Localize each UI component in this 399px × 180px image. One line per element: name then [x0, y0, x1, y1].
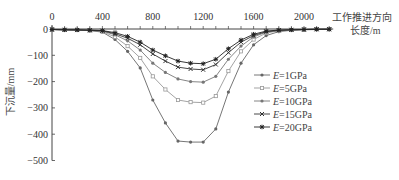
dot-marker-icon [176, 139, 179, 142]
dot-marker-icon [214, 75, 217, 78]
dot-marker-icon [164, 71, 167, 74]
legend-value: =5GPa [279, 83, 307, 94]
dot-marker-icon [189, 80, 192, 83]
square-marker-icon [189, 101, 192, 104]
square-marker-icon [164, 88, 167, 91]
dot-marker-icon [176, 77, 179, 80]
legend-label: E=5GPa [272, 83, 308, 94]
dot-marker-icon [239, 62, 242, 65]
square-marker-icon [139, 56, 142, 59]
dot-marker-icon [126, 50, 129, 53]
legend-var: E [272, 122, 279, 133]
dot-marker-icon [239, 44, 242, 47]
dot-marker-icon [164, 121, 167, 124]
dot-marker-icon [151, 62, 154, 65]
legend-var: E [272, 70, 279, 81]
legend-label: E=1GPa [272, 70, 308, 81]
square-marker-icon [227, 69, 230, 72]
legend-value: =20GPa [279, 122, 312, 133]
dot-marker-icon [227, 91, 230, 94]
dot-marker-icon [202, 140, 205, 143]
series-line [52, 29, 329, 63]
y-tick-label: −300 [27, 102, 48, 113]
y-axis-label: 下沉量/mm [4, 68, 16, 117]
dot-marker-icon [139, 66, 142, 69]
dot-marker-icon [214, 127, 217, 130]
legend-label: E=10GPa [272, 96, 313, 107]
y-tick-label: −200 [27, 76, 48, 87]
dot-marker-icon [139, 48, 142, 51]
dot-marker-icon [202, 81, 205, 84]
square-marker-icon [202, 101, 205, 104]
y-tick-label: 0 [43, 24, 48, 35]
y-tick-label: −500 [27, 155, 48, 166]
x-tick-label: 2000 [294, 11, 314, 22]
x-tick-label: 0 [50, 11, 55, 22]
square-marker-icon [126, 44, 129, 47]
dot-marker-icon [227, 58, 230, 61]
legend: E=1GPaE=5GPaE=10GPaE=15GPaE=20GPa [254, 70, 313, 133]
x-tick-label: 800 [145, 11, 160, 22]
legend-value: =10GPa [279, 96, 312, 107]
square-marker-icon [260, 86, 263, 89]
x-tick-label: 400 [95, 11, 110, 22]
x-axis-label: 长度/m [350, 24, 381, 36]
series-e20gpa [50, 27, 332, 66]
legend-label: E=20GPa [272, 122, 313, 133]
x-tick-label: 1200 [193, 11, 213, 22]
x-tick-label: 1600 [244, 11, 264, 22]
square-marker-icon [239, 50, 242, 53]
dot-marker-icon [260, 99, 263, 102]
square-marker-icon [214, 94, 217, 97]
legend-var: E [272, 109, 279, 120]
legend-label: E=15GPa [272, 109, 313, 120]
square-marker-icon [151, 75, 154, 78]
y-tick-label: −100 [27, 50, 48, 61]
legend-var: E [272, 96, 279, 107]
dot-marker-icon [260, 73, 263, 76]
chart-canvas: 04008001200160020000−100−200−300−400−500… [0, 0, 399, 180]
x-axis-label: 工作推进方向 [332, 11, 392, 23]
square-marker-icon [176, 98, 179, 101]
dot-marker-icon [252, 43, 255, 46]
y-tick-label: −400 [27, 129, 48, 140]
dot-marker-icon [189, 140, 192, 143]
legend-var: E [272, 83, 279, 94]
legend-value: =1GPa [279, 70, 307, 81]
subsidence-chart: 04008001200160020000−100−200−300−400−500… [0, 0, 399, 180]
legend-value: =15GPa [279, 109, 312, 120]
dot-marker-icon [151, 98, 154, 101]
